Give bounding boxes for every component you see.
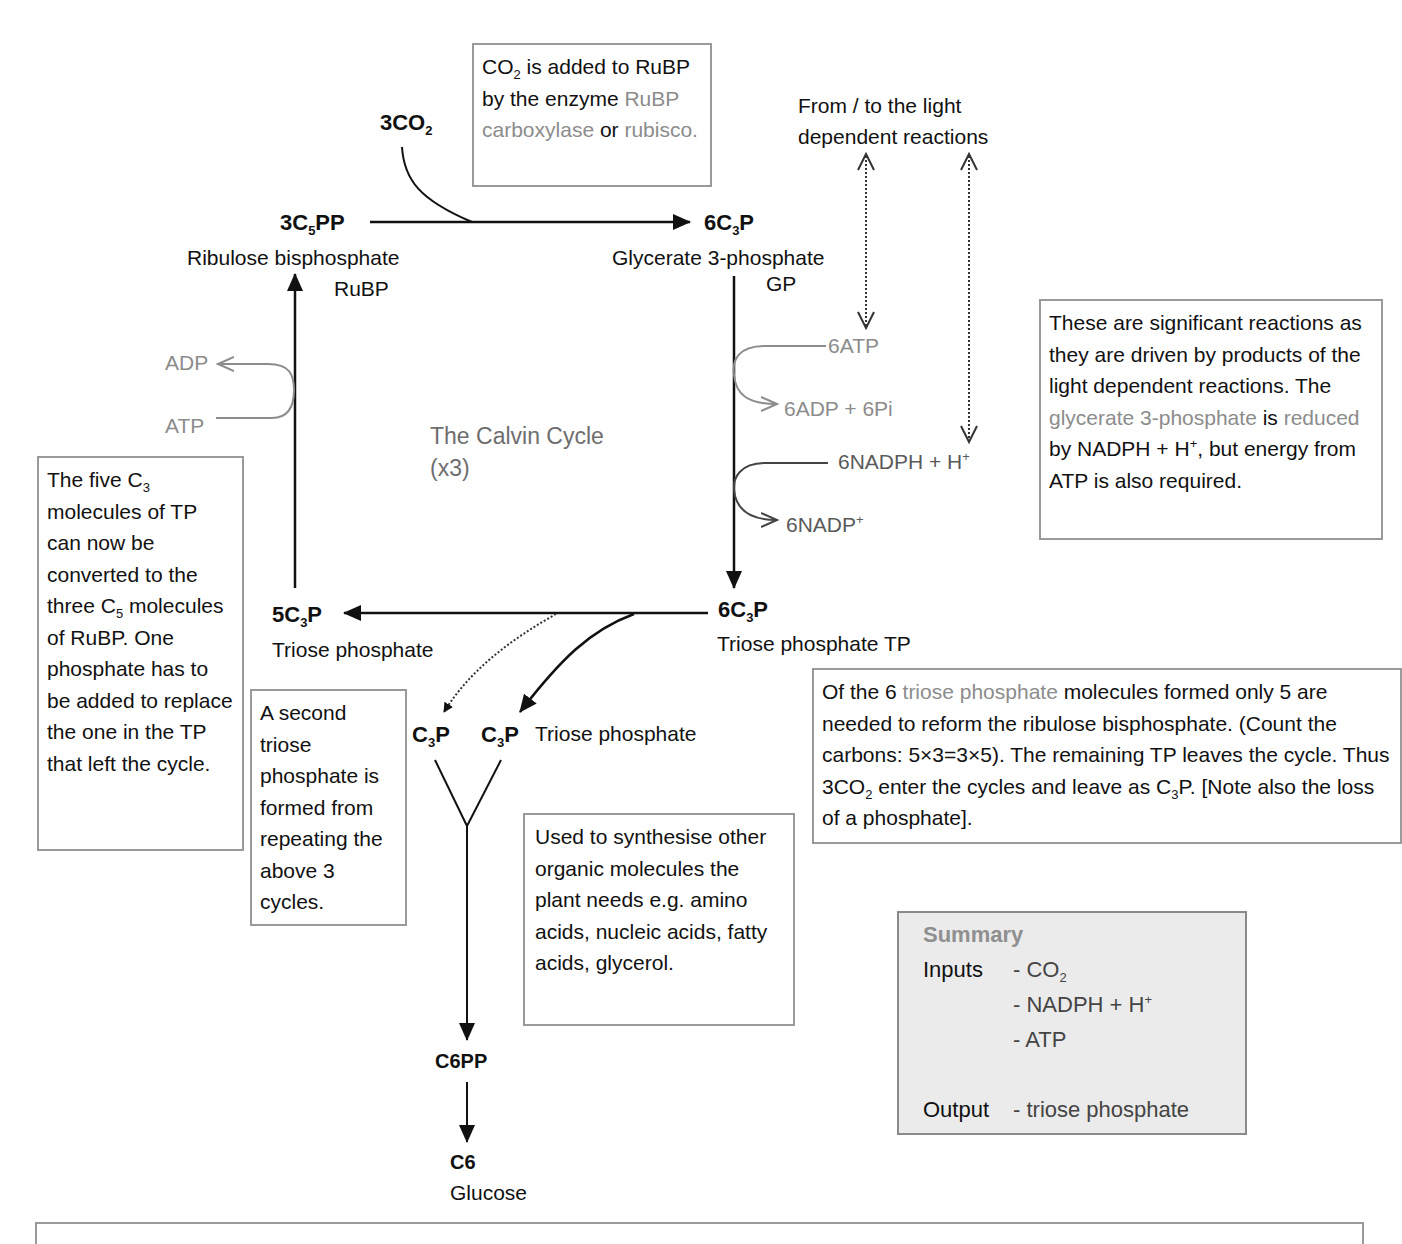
gp-formula: 6C3P [704, 210, 754, 236]
tp6-formula: 6C3P [718, 597, 768, 623]
tp6-name: Triose phosphate TP [717, 632, 911, 656]
arrow-atp-adp [734, 346, 826, 404]
summary-title: Summary [923, 917, 1221, 952]
arrow-regen-atp-adp [216, 364, 294, 418]
arrow-tp-exit [520, 614, 634, 712]
gp-name: Glycerate 3-phosphate [612, 246, 824, 270]
summary-inputs: Inputs - CO2 - NADPH + H+ - ATP [923, 952, 1221, 1057]
arrow-co2-in [402, 147, 472, 222]
five-c3-note: The five C3 molecules of TP can now be c… [37, 456, 244, 851]
nadp-out-label: 6NADP+ [786, 513, 864, 537]
arrow-second-tp [444, 614, 556, 712]
tp5-formula: 5C3P [272, 602, 322, 628]
c3p-left: C3P [412, 722, 450, 748]
summary-box: Summary Inputs - CO2 - NADPH + H+ - ATP … [897, 911, 1247, 1135]
c6pp-formula: C6PP [435, 1050, 487, 1073]
gp-abbr: GP [766, 272, 796, 296]
light-reactions-label: From / to the light dependent reactions [798, 90, 988, 152]
c6-formula: C6 [450, 1151, 476, 1174]
second-tp-note: A second triose phosphate is formed from… [250, 689, 407, 926]
c3p-right-name: Triose phosphate [535, 722, 697, 746]
rubp-name: Ribulose bisphosphate [187, 246, 399, 270]
bottom-note-box [35, 1222, 1364, 1244]
rubp-abbr: RuBP [334, 277, 389, 301]
nadph-in-label: 6NADPH + H+ [838, 450, 970, 474]
significant-reactions-note: These are significant reactions as they … [1039, 299, 1383, 540]
summary-output: Output - triose phosphate [923, 1092, 1221, 1127]
tp5-name: Triose phosphate [272, 638, 434, 662]
synthesise-note: Used to synthesise other organic molecul… [523, 813, 795, 1026]
of-the-six-note: Of the 6 triose phosphate molecules form… [812, 668, 1402, 844]
adp-out-label: 6ADP + 6Pi [784, 397, 893, 421]
rubp-formula: 3C5PP [280, 210, 345, 236]
c6-name: Glucose [450, 1181, 527, 1205]
rubisco-note: CO2 is added to RuBP by the enzyme RuBP … [472, 43, 712, 187]
regen-adp-label: ADP [165, 351, 208, 375]
cycle-title: The Calvin Cycle (x3) [430, 420, 604, 484]
co2-input-label: 3CO2 [380, 110, 432, 136]
c3p-right: C3P [481, 722, 519, 748]
atp-in-label: 6ATP [828, 334, 879, 358]
arrow-nadph-nadp [734, 463, 828, 520]
regen-atp-label: ATP [165, 414, 204, 438]
